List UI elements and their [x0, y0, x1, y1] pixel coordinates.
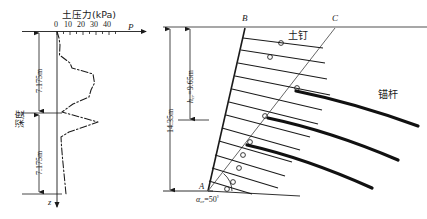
x-tick-10: 10 [64, 21, 72, 29]
x-tick-20: 20 [77, 21, 85, 29]
left-chart-axes [22, 32, 146, 208]
total-height-dimension: 14.35m [167, 109, 175, 133]
earth-pressure-curve [57, 32, 98, 195]
alpha-value: =50 [204, 195, 217, 204]
h-symbol: h [186, 99, 195, 103]
point-label-C: C [332, 14, 338, 23]
degree-unit: ° [217, 195, 219, 201]
slope-reinforcement-figure: 土压力(kPa) P 0 10 20 30 40 深度 z 7.175m 7.1… [0, 0, 427, 219]
soil-nail-group [209, 38, 330, 194]
x-tick-40: 40 [103, 21, 111, 29]
left-chart-title: 土压力(kPa) [62, 10, 116, 20]
dimension-lower-7175: 7.175m [36, 151, 44, 175]
figure-vector [0, 0, 427, 219]
x-axis-symbol-P: P [128, 23, 134, 32]
right-dimension-lines [163, 29, 300, 196]
dimension-upper-7175: 7.175m [36, 69, 44, 93]
x-tick-30: 30 [90, 21, 98, 29]
y-axis-label-depth: 深度 [16, 110, 25, 128]
h-value: =9.65m [186, 70, 195, 95]
anchor-rod-group [247, 91, 418, 188]
critical-angle-label: αcr=50° [196, 196, 219, 205]
point-label-B: B [242, 14, 248, 23]
soil-nail-label: 土钉 [288, 31, 308, 41]
point-label-A: A [199, 182, 204, 191]
critical-height-dimension: hcr=9.65m [187, 70, 196, 103]
anchor-rod-label: 锚杆 [378, 90, 398, 100]
h-subscript: cr [190, 95, 195, 99]
y-axis-symbol-z: z [48, 198, 51, 207]
x-tick-0: 0 [54, 21, 58, 29]
